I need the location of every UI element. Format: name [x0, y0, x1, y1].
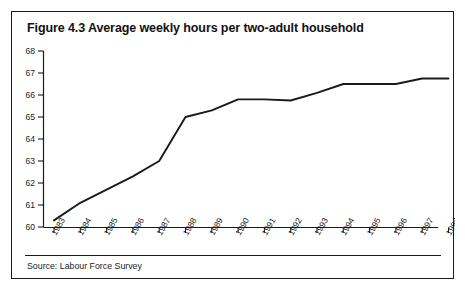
line-chart: 606162636465666768 198319841985198619871… — [12, 12, 455, 280]
y-axis-tick-labels: 606162636465666768 — [25, 46, 35, 232]
x-axis-tick-label: 1983 — [49, 216, 67, 237]
y-axis-tick-label: 61 — [25, 200, 35, 210]
figure-panel: Figure 4.3 Average weekly hours per two-… — [11, 11, 454, 279]
y-axis-tick-label: 62 — [25, 178, 35, 188]
x-axis-tick-label: 1993 — [312, 216, 330, 237]
y-axis: 606162636465666768 — [25, 46, 43, 232]
x-axis-tick-label: 1995 — [365, 216, 383, 237]
x-axis-tick-label: 1986 — [128, 216, 146, 237]
y-axis-tick-label: 64 — [25, 134, 35, 144]
source-note: Source: Labour Force Survey — [27, 261, 142, 271]
x-axis-tick-label: 1987 — [154, 216, 172, 237]
source-divider — [25, 255, 441, 256]
x-axis-tick-label: 1998 — [444, 216, 455, 237]
y-axis-tick-label: 60 — [25, 222, 35, 232]
data-series-line — [54, 79, 449, 221]
x-axis-tick-label: 1989 — [207, 216, 225, 237]
y-axis-ticks — [38, 51, 44, 227]
x-axis-tick-label: 1984 — [75, 216, 93, 237]
x-axis-tick-label: 1991 — [259, 216, 277, 237]
x-axis-tick-label: 1990 — [233, 216, 251, 237]
x-axis-tick-label: 1992 — [286, 216, 304, 237]
chart-plot-area: 606162636465666768 198319841985198619871… — [12, 12, 455, 280]
y-axis-tick-label: 67 — [25, 68, 35, 78]
y-axis-tick-label: 68 — [25, 46, 35, 56]
x-axis-tick-label: 1997 — [417, 216, 435, 237]
y-axis-tick-label: 66 — [25, 90, 35, 100]
x-axis-tick-label: 1994 — [338, 216, 356, 237]
x-axis: 1983198419851986198719881989199019911992… — [44, 216, 456, 237]
y-axis-tick-label: 63 — [25, 156, 35, 166]
x-axis-tick-label: 1988 — [181, 216, 199, 237]
x-axis-tick-labels: 1983198419851986198719881989199019911992… — [49, 216, 455, 237]
x-axis-tick-label: 1996 — [391, 216, 409, 237]
x-axis-tick-label: 1985 — [102, 216, 120, 237]
y-axis-tick-label: 65 — [25, 112, 35, 122]
